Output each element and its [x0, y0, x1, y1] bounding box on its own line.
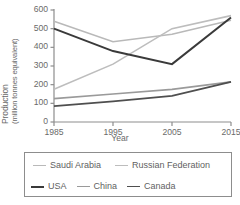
- series-line: [54, 17, 231, 64]
- legend-label: Saudi Arabia: [50, 161, 101, 170]
- legend-item-saudi-arabia[interactable]: Saudi Arabia: [33, 161, 101, 170]
- legend-item-russian-federation[interactable]: Russian Federation: [115, 161, 210, 170]
- legend-item-china[interactable]: China: [77, 182, 118, 191]
- legend-line-swatch: [115, 165, 128, 166]
- legend-label: China: [94, 182, 118, 191]
- legend-item-canada[interactable]: Canada: [127, 182, 176, 191]
- legend-line-swatch: [31, 186, 44, 188]
- chart-legend: Saudi ArabiaRussian Federation USAChinaC…: [24, 152, 232, 197]
- legend-label: Russian Federation: [132, 161, 210, 170]
- chart-figure: Production (million tonnes equivalent) 0…: [0, 0, 240, 205]
- plot-area: Production (million tonnes equivalent) 0…: [0, 0, 240, 148]
- plot-lines: [0, 0, 240, 148]
- legend-row: USAChinaCanada: [25, 176, 237, 197]
- legend-line-swatch: [127, 186, 140, 187]
- series-line: [54, 82, 231, 99]
- legend-row: Saudi ArabiaRussian Federation: [25, 155, 239, 176]
- legend-item-usa[interactable]: USA: [31, 182, 67, 191]
- legend-label: USA: [48, 182, 67, 191]
- legend-label: Canada: [144, 182, 176, 191]
- x-axis-label: Year: [0, 133, 240, 143]
- legend-line-swatch: [33, 165, 46, 166]
- legend-line-swatch: [77, 186, 90, 187]
